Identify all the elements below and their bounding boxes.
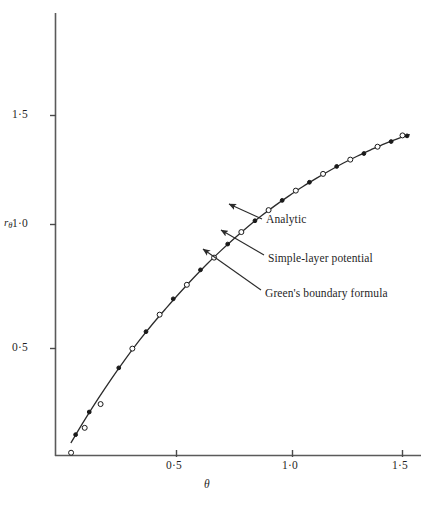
data-point [117,366,121,370]
data-point [308,180,312,184]
data-point [321,171,326,176]
data-point [130,346,135,351]
data-point [405,134,409,138]
x-tick-label-1-0: 1·0 [282,459,298,471]
data-point [375,144,380,149]
annotation-label-greens-boundary-formula: Green's boundary formula [265,287,388,299]
data-point [171,297,175,301]
data-point [226,242,230,246]
data-point [335,165,339,169]
data-point [87,410,91,414]
data-point [293,188,298,193]
data-point [389,140,393,144]
series-simple-layer-potential-markers [74,134,409,437]
data-point [74,433,78,437]
data-point [199,268,203,272]
annotation-label-analytic: Analytic [266,213,306,225]
data-point [239,230,244,235]
annotation-arrow [203,249,261,290]
y-tick-label-0-5: 0·5 [12,341,28,353]
data-point [400,133,405,138]
data-point [69,450,74,455]
data-point [82,425,87,430]
chart-figure: 1·5 1·0 0·5 0·5 1·0 1·5 rθ θ Analytic Si… [0,0,426,508]
y-tick-label-1-5: 1·5 [12,108,28,120]
data-point [98,402,103,407]
annotation-arrows [203,204,264,290]
data-point [157,312,162,317]
annotation-label-simple-layer-potential: Simple-layer potential [268,252,373,264]
data-point [362,152,366,156]
x-axis-title: θ [204,478,210,490]
y-axis-title: rθ [4,216,12,230]
y-axis-title-subscript: θ [8,220,12,230]
data-point [253,219,257,223]
x-tick-label-1-5: 1·5 [392,459,408,471]
data-point [348,157,353,162]
data-point [144,330,148,334]
data-point [280,198,284,202]
y-tick-label-1-0: 1·0 [12,217,28,229]
annotation-arrow [229,204,262,219]
data-point [184,282,189,287]
data-point [266,208,271,213]
x-tick-label-0-5: 0·5 [166,459,182,471]
